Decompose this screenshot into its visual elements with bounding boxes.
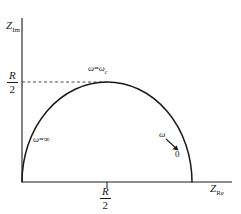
annotation-high-frequency-limit: ω=∞: [33, 135, 50, 144]
fraction-r-over-2: R 2: [100, 186, 111, 211]
fraction-numerator: R: [100, 186, 111, 198]
annotation-characteristic-frequency: ω=ωc: [88, 64, 108, 75]
semicircle-curve: [22, 82, 192, 182]
fraction-denominator: 2: [100, 200, 111, 212]
x-axis-tick-label: R 2: [100, 186, 111, 212]
x-axis-label: ZRe: [210, 183, 224, 197]
annotation-omega-c-subscript: c: [105, 69, 108, 75]
annotation-infinity-symbol: ∞: [44, 134, 50, 144]
annotation-omega-symbol: ω: [159, 129, 165, 139]
fraction-denominator: 2: [7, 84, 18, 96]
y-axis-label: ZIm: [6, 20, 20, 34]
nyquist-plot-figure: ZIm ZRe R 2 R 2 ω=ωc ω=∞ ω 0: [0, 0, 241, 214]
fraction-r-over-2: R 2: [7, 70, 18, 95]
plot-canvas: [0, 0, 241, 214]
x-axis-label-subscript: Re: [216, 189, 224, 197]
y-axis-label-subscript: Im: [12, 26, 20, 34]
y-axis-tick-label: R 2: [7, 70, 18, 96]
annotation-arrow-zero-label: 0: [175, 150, 180, 159]
annotation-arrow-omega-label: ω: [159, 130, 165, 139]
fraction-numerator: R: [7, 70, 18, 82]
annotation-zero-value: 0: [175, 149, 180, 159]
